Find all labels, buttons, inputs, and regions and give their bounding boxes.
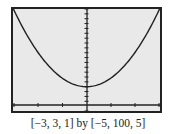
window-caption: [−3, 3, 1] by [−5, 100, 5] (0, 117, 176, 129)
calculator-graph-screen (11, 7, 162, 113)
graph-plot (13, 9, 160, 111)
